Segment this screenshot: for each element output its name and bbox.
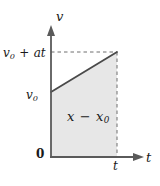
- origin-label: 0: [36, 148, 44, 160]
- x-axis-arrowhead-icon: [133, 153, 144, 161]
- y-tick-v0-subscript: 0: [33, 93, 38, 103]
- area-label-minus-operator: −: [75, 109, 96, 124]
- y-tick-label-v0: v0: [26, 89, 38, 102]
- y-axis-arrowhead-icon: [47, 25, 55, 36]
- x-axis-label: t: [146, 151, 151, 164]
- x-tick-label-t: t: [113, 160, 118, 172]
- y-axis-label: v: [56, 10, 63, 23]
- graph-canvas: [0, 0, 160, 186]
- y-tick-v-symbol: v: [3, 46, 10, 60]
- area-label-x: x: [67, 109, 75, 124]
- shaded-area-label: x − x0: [67, 110, 110, 125]
- y-tick-at-term: at: [34, 46, 46, 60]
- area-label-x0: x: [96, 109, 104, 124]
- shaded-displacement-area: [51, 52, 117, 156]
- y-tick-label-v0-plus-at: v0 + at: [3, 47, 46, 60]
- y-tick-v0-symbol: v: [26, 88, 33, 102]
- y-tick-plus-operator: +: [15, 46, 34, 60]
- velocity-time-graph-figure: v t v0 + at v0 0 t x − x0: [0, 0, 160, 186]
- area-label-x0-subscript: 0: [104, 115, 110, 125]
